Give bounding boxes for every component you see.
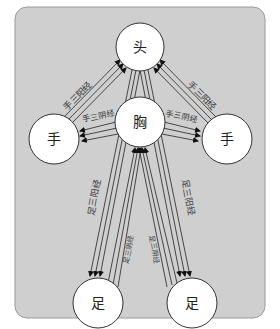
node-left-foot: 足	[73, 278, 123, 328]
node-right-foot: 足	[167, 278, 217, 328]
svg-text:手: 手	[220, 131, 234, 147]
node-right-hand: 手	[202, 114, 252, 164]
svg-text:手: 手	[47, 131, 61, 147]
svg-text:头: 头	[133, 39, 147, 55]
svg-text:足: 足	[185, 295, 199, 311]
node-left-hand: 手	[29, 114, 79, 164]
svg-text:足: 足	[91, 295, 105, 311]
node-head: 头	[116, 23, 164, 71]
meridian-diagram: 头 胸 手 手 足 足 手三阳经 手三阳经 手三阴经 手三阴经 足三阳经 足三阳…	[0, 0, 280, 329]
svg-text:胸: 胸	[133, 114, 147, 130]
node-chest: 胸	[115, 97, 165, 147]
